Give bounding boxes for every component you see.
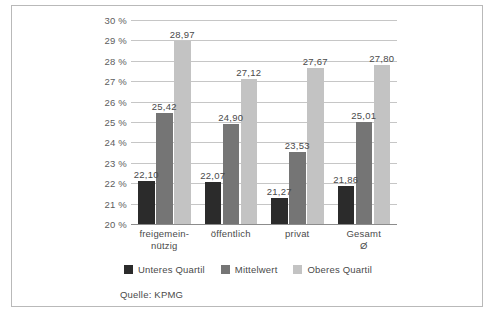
bar-value-label: 28,97 [170,29,195,40]
chart-figure: 20 %21 %22 %23 %24 %25 %26 %27 %28 %29 %… [11,5,483,307]
gridline [131,224,397,225]
legend-swatch-icon [293,265,302,274]
x-axis-category-label: Gesamt Ø [347,228,381,251]
legend-item-label: Unteres Quartil [138,264,205,275]
y-axis-tick-label: 24 % [105,137,127,148]
y-axis-tick-label: 22 % [105,178,127,189]
bar-value-label: 27,12 [236,67,261,78]
y-axis-tick-label: 28 % [105,55,127,66]
bar-value-label: 21,86 [333,174,358,185]
bar-value-label: 25,42 [152,101,177,112]
legend-item-label: Mittelwert [235,264,278,275]
bar-value-label: 24,90 [218,112,243,123]
plot-area: 20 %21 %22 %23 %24 %25 %26 %27 %28 %29 %… [131,20,397,224]
bar-value-label: 23,53 [285,140,310,151]
legend-item[interactable]: Unteres Quartil [124,264,205,275]
bar-value-label: 25,01 [351,110,376,121]
bar-value-label: 27,80 [369,53,394,64]
x-axis-category-label: öffentlich [211,228,251,240]
y-axis-tick-label: 26 % [105,96,127,107]
source-note: Quelle: KPMG [120,289,183,300]
y-axis-tick-label: 27 % [105,76,127,87]
chart-legend: Unteres QuartilMittelwertOberes Quartil [12,264,484,275]
y-axis-tick-label: 20 % [105,219,127,230]
y-axis-tick-label: 29 % [105,35,127,46]
y-axis-tick-label: 23 % [105,157,127,168]
y-axis-tick-label: 25 % [105,117,127,128]
x-axis-category-label: freigemein- nützig [139,228,189,251]
bar-value-label: 27,67 [303,56,328,67]
bar-value-label: 22,10 [134,169,159,180]
legend-item[interactable]: Mittelwert [221,264,278,275]
legend-item[interactable]: Oberes Quartil [293,264,372,275]
x-axis-categories: freigemein- nützigöffentlichprivatGesamt… [131,228,397,260]
y-axis-tick-label: 21 % [105,198,127,209]
legend-swatch-icon [124,265,133,274]
x-axis-category-label: privat [285,228,309,240]
bar-value-label: 21,27 [267,186,292,197]
legend-item-label: Oberes Quartil [307,264,372,275]
y-axis-tick-label: 30 % [105,15,127,26]
value-labels: 22,1025,4228,9722,0724,9027,1221,2723,53… [131,20,397,224]
legend-swatch-icon [221,265,230,274]
bar-value-label: 22,07 [200,170,225,181]
